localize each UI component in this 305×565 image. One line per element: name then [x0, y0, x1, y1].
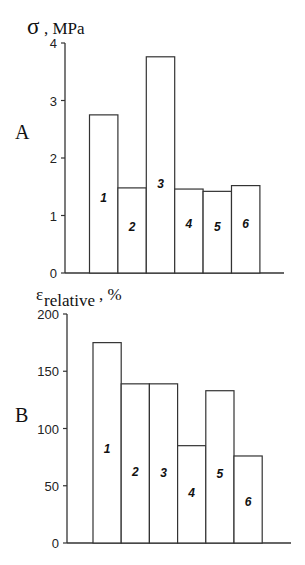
panel-a-y-tick-label: 4 [50, 36, 57, 51]
panel-a-bar-label: 3 [157, 177, 164, 191]
panel-b-strain-chart: ε relative , % B 050100150200 123456 [15, 285, 291, 551]
panel-a-bar-label: 1 [100, 191, 107, 205]
panel-b-bar-3 [149, 384, 177, 543]
panel-a-y-tick-label: 2 [50, 151, 57, 166]
panel-a-stress-chart: σ , MPa A 01234 123456 [15, 14, 284, 281]
panel-b-ylabel-epsilon: ε [36, 285, 43, 304]
panel-b-y-tick-label: 150 [37, 364, 59, 379]
panel-a-bar-3 [146, 57, 174, 273]
panel-b-y-tick-label: 50 [45, 479, 59, 494]
panel-a-y-tick-label: 0 [50, 266, 57, 281]
panel-b-ylabel-unit: , % [99, 285, 122, 304]
panel-b-bar-label: 6 [245, 495, 252, 509]
panel-a-bars: 123456 [90, 57, 260, 273]
panel-a-bar-label: 6 [242, 217, 249, 231]
panel-b-bar-label: 2 [131, 465, 139, 479]
panel-b-bar-label: 1 [104, 442, 111, 456]
panel-b-bar-label: 4 [187, 486, 195, 500]
panel-b-bar-label: 3 [160, 466, 167, 480]
panel-b-bars: 123456 [93, 343, 262, 543]
panel-b-y-tick-label: 0 [52, 536, 59, 551]
bar-charts-figure: σ , MPa A 01234 123456 ε relative , % B … [0, 0, 305, 565]
panel-a-letter: A [15, 121, 30, 143]
panel-a-bar-label: 2 [128, 220, 136, 234]
panel-b-bar-2 [121, 384, 149, 543]
panel-a-bar-label: 4 [185, 217, 193, 231]
panel-b-y-tick-label: 200 [37, 307, 59, 322]
panel-b-bar-label: 5 [217, 467, 224, 481]
panel-a-bar-label: 5 [214, 220, 221, 234]
panel-a-y-tick-label: 3 [50, 94, 57, 109]
panel-b-y-tick-label: 100 [37, 422, 59, 437]
panel-a-y-tick-label: 1 [50, 209, 57, 224]
panel-a-ylabel-sigma: σ [27, 14, 40, 39]
panel-b-letter: B [15, 404, 28, 426]
